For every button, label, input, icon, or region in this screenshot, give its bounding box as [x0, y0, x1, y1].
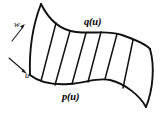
w-axis-label: w — [14, 20, 20, 29]
w-arrow-head — [20, 24, 25, 28]
diagram-canvas — [0, 0, 161, 118]
bottom-curve-label: p(u) — [62, 92, 79, 103]
top-curve-label: q(u) — [84, 17, 101, 28]
u-arrow-shaft — [9, 58, 24, 71]
w-arrow-shaft — [12, 27, 23, 41]
ruled-surface-figure: q(u) p(u) w u — [0, 0, 161, 118]
u-axis-label: u — [25, 71, 29, 80]
